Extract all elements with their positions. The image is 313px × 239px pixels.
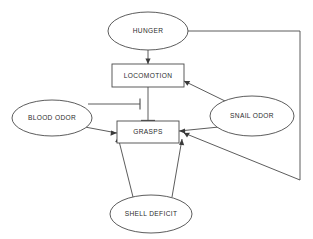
edge-line [172, 139, 182, 197]
edge-snail-odor-to-locomotion [184, 81, 225, 101]
edge-line [184, 81, 225, 101]
edge-shell-deficit-to-grasps-right [172, 139, 184, 197]
node-hunger[interactable]: HUNGER [108, 12, 188, 50]
node-grasps[interactable]: GRASPS [117, 121, 179, 143]
edge-blood-odor-to-locomotion [88, 99, 140, 110]
edge-line [118, 137, 133, 197]
arrowhead-icon [111, 131, 118, 136]
arrowhead-icon [179, 139, 184, 145]
edge-blood-odor-to-grasps [85, 127, 117, 136]
node-layer: HUNGER LOCOMOTION BLOOD ODOR GRASPS SNAI… [12, 12, 294, 233]
node-locomotion-label: LOCOMOTION [124, 72, 173, 79]
diagram-svg: HUNGER LOCOMOTION BLOOD ODOR GRASPS SNAI… [0, 0, 313, 239]
node-shell-deficit[interactable]: SHELL DEFICIT [110, 195, 192, 233]
node-locomotion[interactable]: LOCOMOTION [112, 64, 184, 87]
edge-snail-odor-to-grasps [179, 127, 219, 134]
node-blood-odor[interactable]: BLOOD ODOR [12, 100, 92, 136]
node-hunger-label: HUNGER [133, 27, 164, 34]
node-snail-odor-label: SNAIL ODOR [230, 112, 274, 119]
node-snail-odor[interactable]: SNAIL ODOR [210, 96, 294, 136]
arrowhead-icon [145, 59, 150, 64]
arrowhead-icon [179, 129, 185, 134]
edge-hunger-to-locomotion [145, 50, 150, 64]
node-grasps-label: GRASPS [133, 128, 163, 135]
node-blood-odor-label: BLOOD ODOR [28, 114, 76, 121]
node-shell-deficit-label: SHELL DEFICIT [125, 210, 178, 217]
edge-locomotion-to-grasps [141, 87, 155, 121]
edge-shell-deficit-to-grasps-left [115, 137, 133, 197]
diagram-canvas: HUNGER LOCOMOTION BLOOD ODOR GRASPS SNAI… [0, 0, 313, 239]
